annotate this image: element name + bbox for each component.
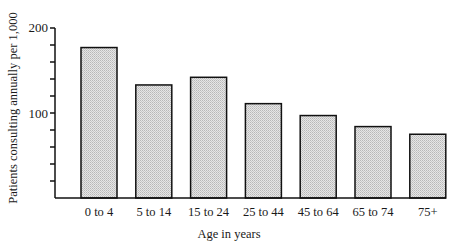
x-tick-label: 0 to 4 xyxy=(85,205,113,220)
y-tick-label-200: 200 xyxy=(29,20,49,36)
x-tick-label: 25 to 44 xyxy=(243,205,284,220)
x-tick-label: 45 to 64 xyxy=(298,205,339,220)
x-tick-label: 65 to 74 xyxy=(353,205,394,220)
bar-chart: Patients consulting annually per 1,000 A… xyxy=(0,0,454,246)
bar-0-to-4 xyxy=(81,48,117,198)
bar-65-to-74 xyxy=(355,127,391,198)
bar-25-to-44 xyxy=(245,104,281,198)
x-tick-label: 75+ xyxy=(418,205,438,220)
y-tick-label-100: 100 xyxy=(29,106,49,122)
bar-15-to-24 xyxy=(191,77,227,198)
bar-75plus xyxy=(410,134,446,198)
x-tick-label: 5 to 14 xyxy=(136,205,171,220)
bar-5-to-14 xyxy=(136,85,172,198)
bars-group xyxy=(81,48,446,198)
bar-45-to-64 xyxy=(300,116,336,198)
x-tick-label: 15 to 24 xyxy=(188,205,229,220)
x-axis-label: Age in years xyxy=(197,227,260,242)
y-axis-label: Patients consulting annually per 1,000 xyxy=(6,8,21,208)
